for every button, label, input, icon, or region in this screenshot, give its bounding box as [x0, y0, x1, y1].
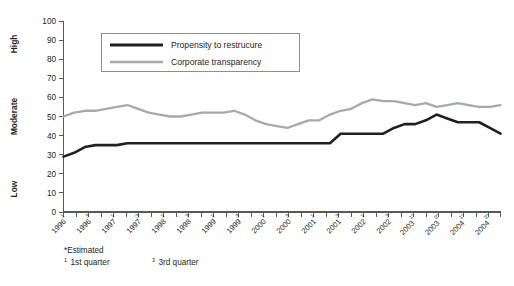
x-tick-label: 20033* — [421, 213, 445, 237]
x-tick-label: 20021 — [347, 212, 370, 235]
x-tick-label-group: 1996119963199711997319981199831999119993… — [47, 212, 495, 236]
legend-label-1: Corporate transparency — [171, 57, 262, 67]
x-tick-label: 20041* — [446, 213, 470, 237]
line-chart: 1009080706050403020100 HighModerateLow 1… — [0, 0, 514, 286]
y-band-label: High — [9, 35, 19, 54]
x-tick-label: 19991 — [197, 212, 220, 235]
series-line-propensity — [64, 115, 501, 157]
chart-legend: Propensity to restrucureCorporate transp… — [101, 33, 299, 71]
x-tick-label: 19993 — [222, 212, 245, 235]
x-tick-label: 20013 — [322, 212, 345, 235]
x-tick-label: 19981 — [147, 212, 170, 235]
legend-label-0: Propensity to restrucure — [171, 40, 262, 50]
y-band-label: Low — [9, 180, 19, 197]
y-tick-label: 30 — [47, 151, 57, 160]
x-tick-label: 19971 — [97, 212, 120, 235]
x-tick-label: 20011 — [297, 212, 320, 235]
footnote-group: *Estimated11st quarter33rd quarter — [64, 246, 199, 267]
y-tick-label: 40 — [47, 132, 57, 141]
y-tick-label: 50 — [47, 113, 57, 122]
x-tick-label: 20003 — [272, 212, 295, 235]
footnote-quarter-3: 33rd quarter — [152, 257, 199, 267]
x-tick-label: 19983 — [172, 212, 195, 235]
footnote-quarter-1: 11st quarter — [64, 257, 110, 267]
y-band-label: Moderate — [9, 98, 19, 136]
y-tick-label: 0 — [51, 208, 56, 217]
series-line-transparency — [64, 99, 501, 128]
x-tick-label: 19963 — [72, 212, 95, 235]
x-tick-label: 19973 — [122, 212, 145, 235]
y-band-label-group: HighModerateLow — [9, 35, 19, 198]
y-tick-label: 60 — [47, 93, 57, 102]
x-tick-label: 20043* — [471, 213, 495, 237]
y-axis-group: 1009080706050403020100 HighModerateLow — [9, 17, 64, 217]
y-tick-label: 70 — [47, 74, 57, 83]
x-axis-group: 1996119963199711997319981199831999119993… — [47, 212, 500, 237]
y-tick-label: 80 — [47, 55, 57, 64]
y-tick-group: 1009080706050403020100 — [42, 17, 63, 217]
y-tick-label: 10 — [47, 189, 57, 198]
x-tick-label: 20001 — [247, 212, 270, 235]
y-tick-label: 100 — [42, 17, 56, 26]
series-group — [64, 99, 501, 156]
chart-container: 1009080706050403020100 HighModerateLow 1… — [0, 0, 514, 286]
y-tick-label: 20 — [47, 170, 57, 179]
x-tick-label: 20023 — [372, 212, 395, 235]
y-tick-label: 90 — [47, 36, 57, 45]
x-tick-label: 20031* — [396, 213, 420, 237]
footnote-estimated: *Estimated — [64, 246, 104, 255]
